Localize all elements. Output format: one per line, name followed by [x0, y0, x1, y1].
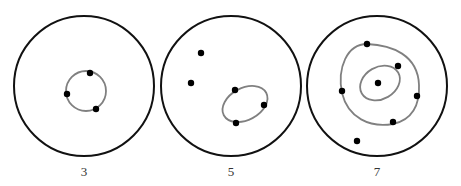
- diagram-canvas: [0, 0, 461, 186]
- point-dot: [87, 70, 93, 76]
- point-dot: [188, 80, 194, 86]
- panel-label-5: 5: [228, 164, 235, 180]
- point-dot: [375, 80, 381, 86]
- outer-circle: [161, 16, 301, 156]
- panel-label-3: 3: [81, 164, 88, 180]
- point-dot: [233, 120, 239, 126]
- outer-circle: [14, 16, 154, 156]
- point-dot: [354, 138, 360, 144]
- panel-7: [307, 16, 447, 156]
- point-dot: [339, 88, 345, 94]
- panel-3: [14, 16, 154, 156]
- contour-curve: [66, 71, 106, 111]
- point-dot: [93, 106, 99, 112]
- point-dot: [261, 102, 267, 108]
- point-dot: [198, 50, 204, 56]
- point-dot: [390, 119, 396, 125]
- panel-label-7: 7: [374, 164, 381, 180]
- panel-5: [161, 16, 301, 156]
- point-dot: [364, 41, 370, 47]
- point-dot: [414, 93, 420, 99]
- point-dot: [395, 63, 401, 69]
- point-dot: [64, 91, 70, 97]
- point-dot: [232, 87, 238, 93]
